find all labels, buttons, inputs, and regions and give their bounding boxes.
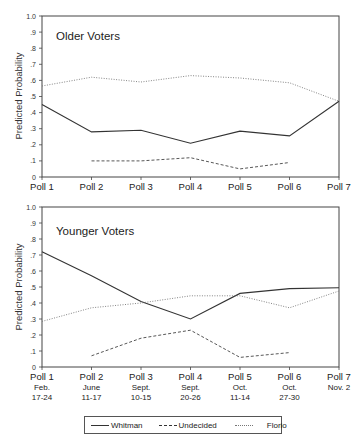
y-tick-label: .6 <box>30 268 36 275</box>
x-tick-label: Poll 4 <box>179 371 203 382</box>
x-tick-sublabel: 10-15 <box>131 393 152 402</box>
y-tick-label: 0 <box>32 174 36 181</box>
series-line-undecided <box>92 158 290 169</box>
x-tick-label: Poll 6 <box>278 371 302 382</box>
solid-line-icon <box>91 425 109 426</box>
y-tick-label: .8 <box>30 45 36 52</box>
x-tick-label: Poll 7 <box>327 371 351 382</box>
y-tick-label: .9 <box>30 220 36 227</box>
dashed-line-icon <box>159 425 177 426</box>
legend-label: Florio <box>267 421 287 430</box>
series-line-undecided <box>92 330 290 357</box>
x-tick-label: Poll 4 <box>179 181 203 192</box>
chart-title: Younger Voters <box>56 225 134 237</box>
y-tick-label: .6 <box>30 77 36 84</box>
x-tick-label: Poll 6 <box>278 181 302 192</box>
x-tick-sublabel: 11-14 <box>230 393 250 402</box>
legend-item-florio: Florio <box>235 421 287 430</box>
y-tick-label: .2 <box>30 332 36 339</box>
y-tick-label: .1 <box>30 348 36 355</box>
y-axis-label: Predicted Probability <box>13 243 24 330</box>
x-tick-label: Poll 2 <box>80 371 104 382</box>
chart-legend: Whitman Undecided Florio <box>84 416 282 434</box>
y-tick-label: .3 <box>30 125 36 132</box>
x-tick-label: Poll 5 <box>228 181 252 192</box>
y-tick-label: .5 <box>30 93 36 100</box>
x-tick-label: Poll 3 <box>129 181 153 192</box>
x-tick-sublabel: Nov. 2 <box>328 383 351 392</box>
y-tick-label: 1.0 <box>26 13 36 20</box>
legend-item-whitman: Whitman <box>91 421 143 430</box>
y-tick-label: .7 <box>30 61 36 68</box>
y-tick-label: .8 <box>30 236 36 243</box>
y-tick-label: .4 <box>30 109 36 116</box>
x-tick-label: Poll 7 <box>327 181 351 192</box>
x-tick-label: Poll 1 <box>30 371 54 382</box>
x-tick-sublabel: 11-17 <box>82 393 102 402</box>
x-tick-sublabel: Oct. <box>282 383 297 392</box>
chart-title: Older Voters <box>56 30 120 42</box>
x-tick-sublabel: 17-24 <box>32 393 53 402</box>
y-tick-label: .1 <box>30 157 36 164</box>
y-tick-label: .3 <box>30 316 36 323</box>
y-tick-label: .9 <box>30 29 36 36</box>
y-axis-label: Predicted Probability <box>13 52 24 139</box>
x-tick-sublabel: 20-26 <box>180 393 201 402</box>
y-tick-label: .5 <box>30 284 36 291</box>
y-tick-label: .2 <box>30 141 36 148</box>
legend-label: Undecided <box>179 421 217 430</box>
x-tick-label: Poll 1 <box>30 181 54 192</box>
x-tick-sublabel: Sept. <box>132 383 151 392</box>
series-line-whitman <box>42 252 339 319</box>
chart-younger-voters: 0.1.2.3.4.5.6.7.8.91.0Poll 1Feb.17-24Pol… <box>13 204 351 403</box>
x-tick-sublabel: Feb. <box>34 383 50 392</box>
y-tick-label: 1.0 <box>26 204 36 211</box>
chart-older-voters: 0.1.2.3.4.5.6.7.8.91.0Poll 1Poll 2Poll 3… <box>13 13 351 193</box>
x-tick-label: Poll 3 <box>129 371 153 382</box>
series-line-whitman <box>42 101 339 143</box>
x-tick-label: Poll 5 <box>228 371 252 382</box>
series-line-florio <box>42 76 339 102</box>
x-tick-label: Poll 2 <box>80 181 104 192</box>
x-tick-sublabel: Oct. <box>233 383 248 392</box>
legend-label: Whitman <box>111 421 143 430</box>
dotted-line-icon <box>235 425 253 426</box>
chart-canvas: 0.1.2.3.4.5.6.7.8.91.0Poll 1Poll 2Poll 3… <box>0 0 360 447</box>
x-tick-sublabel: 27-30 <box>279 393 300 402</box>
y-tick-label: 0 <box>32 364 36 371</box>
legend-item-undecided: Undecided <box>159 421 217 430</box>
x-tick-sublabel: Sept. <box>181 383 200 392</box>
x-tick-sublabel: June <box>83 383 101 392</box>
y-tick-label: .4 <box>30 300 36 307</box>
y-tick-label: .7 <box>30 252 36 259</box>
series-line-florio <box>42 291 339 321</box>
